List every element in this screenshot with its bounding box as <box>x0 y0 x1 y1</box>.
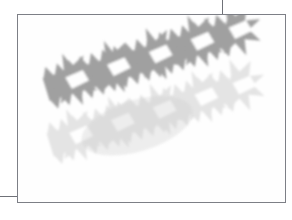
star-chain-artwork <box>18 15 285 202</box>
top-vertical-crop-rule <box>222 0 223 15</box>
screenshot-canvas <box>0 0 292 220</box>
left-horizontal-crop-rule <box>0 196 18 197</box>
artwork-frame <box>17 14 286 203</box>
